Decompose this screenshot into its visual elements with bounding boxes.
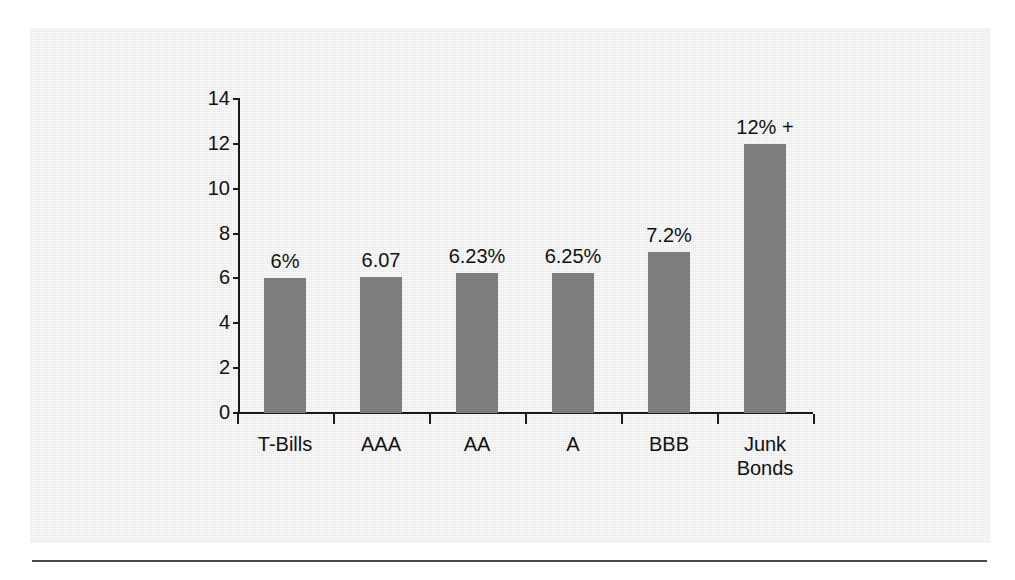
x-axis-tick: [333, 414, 335, 424]
y-axis-tick: [233, 277, 240, 279]
x-axis-category-label: AA: [422, 432, 532, 456]
y-axis-tick-label: 0: [170, 402, 230, 422]
y-axis-tick: [233, 188, 240, 190]
y-axis-tick-label: 14: [170, 88, 230, 108]
x-axis-category-label: BBB: [614, 432, 724, 456]
x-axis-tick: [429, 414, 431, 424]
y-axis-tick: [233, 98, 240, 100]
x-axis-category-label: AAA: [326, 432, 436, 456]
bar: [744, 144, 786, 413]
x-axis-category-label: T-Bills: [230, 432, 340, 456]
bar-value-label: 6.25%: [513, 245, 633, 267]
y-axis-tick-label: 8: [170, 223, 230, 243]
y-axis-tick: [233, 233, 240, 235]
x-axis-tick: [237, 414, 239, 424]
bar: [648, 252, 690, 413]
x-axis-tick: [813, 414, 815, 424]
bar: [456, 273, 498, 413]
bar: [552, 273, 594, 413]
x-axis-tick: [525, 414, 527, 424]
bar-value-label: 7.2%: [609, 224, 729, 246]
y-axis-tick-label: 2: [170, 357, 230, 377]
x-axis-tick: [717, 414, 719, 424]
bar: [264, 278, 306, 413]
figure-panel: 02468101214 6%6.076.23%6.25%7.2%12% + T-…: [30, 28, 990, 543]
y-axis-tick: [233, 143, 240, 145]
y-axis-tick-label: 12: [170, 133, 230, 153]
y-axis-tick-label: 6: [170, 267, 230, 287]
y-axis-tick: [233, 322, 240, 324]
y-axis-tick-label: 10: [170, 178, 230, 198]
bar-value-label: 12% +: [705, 116, 825, 138]
bar-chart-plot-area: 02468101214 6%6.076.23%6.25%7.2%12% + T-…: [30, 28, 990, 543]
x-axis-category-label: Junk Bonds: [710, 432, 820, 480]
y-axis-tick-label: 4: [170, 312, 230, 332]
bar: [360, 277, 402, 413]
x-axis-category-label: A: [518, 432, 628, 456]
page-divider-rule: [32, 560, 987, 562]
x-axis-tick: [621, 414, 623, 424]
y-axis-tick: [233, 367, 240, 369]
